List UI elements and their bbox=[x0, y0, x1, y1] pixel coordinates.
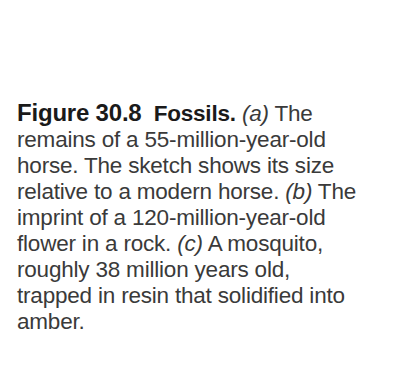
caption-line-8: trapped in resin that solidified into bbox=[17, 283, 397, 309]
figure-title: Fossils. bbox=[154, 101, 236, 126]
caption-text: relative to a modern horse. bbox=[17, 179, 285, 204]
caption-line-5: imprint of a 120-million-year-old bbox=[17, 205, 397, 231]
caption-text: A mosquito, bbox=[203, 231, 323, 256]
caption-line-6: flower in a rock. (c) A mosquito, bbox=[17, 231, 397, 257]
figure-label: Figure 30.8 bbox=[17, 99, 142, 126]
caption-text: The bbox=[312, 179, 356, 204]
caption-line-1: Figure 30.8 Fossils. (a) The bbox=[17, 100, 397, 127]
caption-text: flower in a rock. bbox=[17, 231, 177, 256]
caption-text: The bbox=[269, 101, 313, 126]
caption-line-9: amber. bbox=[17, 309, 397, 335]
caption-line-7: roughly 38 million years old, bbox=[17, 257, 397, 283]
caption-line-4: relative to a modern horse. (b) The bbox=[17, 179, 397, 205]
panel-label-b: (b) bbox=[285, 179, 312, 204]
caption-line-3: horse. The sketch shows its size bbox=[17, 153, 397, 179]
caption-line-2: remains of a 55-million-year-old bbox=[17, 127, 397, 153]
panel-label-a: (a) bbox=[242, 101, 269, 126]
panel-label-c: (c) bbox=[177, 231, 203, 256]
figure-caption: Figure 30.8 Fossils. (a) The remains of … bbox=[17, 100, 397, 335]
